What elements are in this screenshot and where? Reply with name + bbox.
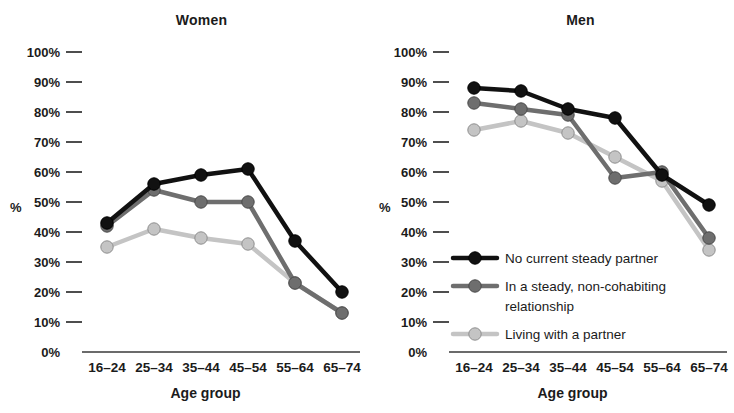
x-tick-label: 35–44 bbox=[182, 360, 220, 375]
x-tick-label: 16–24 bbox=[455, 360, 493, 375]
y-tick-label: 30% bbox=[401, 255, 427, 270]
x-tick-label: 65–74 bbox=[323, 360, 361, 375]
x-tick-label: 25–34 bbox=[135, 360, 173, 375]
data-point[interactable] bbox=[195, 169, 207, 181]
x-tick-label: 35–44 bbox=[549, 360, 587, 375]
data-point[interactable] bbox=[242, 163, 254, 175]
series-group-women bbox=[101, 163, 348, 319]
x-tick-label: 65–74 bbox=[690, 360, 728, 375]
data-point[interactable] bbox=[468, 124, 480, 136]
y-tick-label: 100% bbox=[394, 45, 428, 60]
data-point[interactable] bbox=[289, 235, 301, 247]
data-point[interactable] bbox=[562, 103, 574, 115]
data-point[interactable] bbox=[242, 238, 254, 250]
series-line bbox=[107, 169, 342, 292]
x-tick-label: 55–64 bbox=[276, 360, 314, 375]
y-tick-label: 80% bbox=[401, 105, 427, 120]
x-axis-label-women: Age group bbox=[22, 385, 389, 401]
legend-swatch-marker bbox=[469, 328, 481, 340]
y-tick-label: 30% bbox=[34, 255, 60, 270]
y-axis-label-men: % bbox=[379, 200, 391, 215]
data-point[interactable] bbox=[336, 286, 348, 298]
legend-label[interactable]: No current steady partner bbox=[505, 251, 659, 266]
x-tick-label: 55–64 bbox=[643, 360, 681, 375]
y-tick-label: 80% bbox=[34, 105, 60, 120]
y-axis-ticks-men: 0%10%20%30%40%50%60%70%80%90%100% bbox=[394, 45, 449, 360]
data-point[interactable] bbox=[609, 172, 621, 184]
data-point[interactable] bbox=[656, 169, 668, 181]
legend-men: No current steady partnerIn a steady, no… bbox=[453, 251, 666, 342]
data-point[interactable] bbox=[515, 115, 527, 127]
y-tick-label: 70% bbox=[34, 135, 60, 150]
y-tick-label: 40% bbox=[34, 225, 60, 240]
legend-swatch-marker bbox=[469, 280, 481, 292]
data-point[interactable] bbox=[195, 232, 207, 244]
x-axis-label-men: Age group bbox=[389, 385, 734, 401]
x-axis-ticks-women: 16–2425–3435–4445–5455–6465–74 bbox=[88, 360, 361, 375]
data-point[interactable] bbox=[468, 97, 480, 109]
plot-women: 0%10%20%30%40%50%60%70%80%90%100% 16–242… bbox=[0, 0, 367, 413]
data-point[interactable] bbox=[515, 85, 527, 97]
data-point[interactable] bbox=[609, 112, 621, 124]
series-line bbox=[107, 229, 342, 313]
data-point[interactable] bbox=[515, 103, 527, 115]
chart-panel-men: Men 0%10%20%30%40%50%60%70%80%90%100% 16… bbox=[367, 0, 734, 413]
legend-swatch-marker bbox=[469, 252, 481, 264]
y-tick-label: 60% bbox=[34, 165, 60, 180]
plot-men: 0%10%20%30%40%50%60%70%80%90%100% 16–242… bbox=[367, 0, 734, 413]
data-point[interactable] bbox=[468, 82, 480, 94]
data-point[interactable] bbox=[148, 223, 160, 235]
y-tick-label: 20% bbox=[34, 285, 60, 300]
y-tick-label: 20% bbox=[401, 285, 427, 300]
y-tick-label: 100% bbox=[27, 45, 61, 60]
x-tick-label: 45–54 bbox=[596, 360, 634, 375]
legend-label[interactable]: relationship bbox=[505, 299, 574, 314]
y-tick-label: 90% bbox=[401, 75, 427, 90]
y-tick-label: 60% bbox=[401, 165, 427, 180]
data-point[interactable] bbox=[703, 232, 715, 244]
legend-label[interactable]: In a steady, non-cohabiting bbox=[505, 279, 666, 294]
y-tick-label: 0% bbox=[41, 345, 60, 360]
data-point[interactable] bbox=[242, 196, 254, 208]
x-tick-label: 45–54 bbox=[229, 360, 267, 375]
data-point[interactable] bbox=[148, 178, 160, 190]
y-axis-ticks-women: 0%10%20%30%40%50%60%70%80%90%100% bbox=[27, 45, 82, 360]
x-tick-label: 16–24 bbox=[88, 360, 126, 375]
y-tick-label: 10% bbox=[34, 315, 60, 330]
data-point[interactable] bbox=[336, 307, 348, 319]
data-point[interactable] bbox=[101, 241, 113, 253]
data-point[interactable] bbox=[101, 217, 113, 229]
figure-container: Women 0%10%20%30%40%50%60%70%80%90%100% … bbox=[0, 0, 734, 413]
data-point[interactable] bbox=[289, 277, 301, 289]
y-tick-label: 90% bbox=[34, 75, 60, 90]
chart-panel-women: Women 0%10%20%30%40%50%60%70%80%90%100% … bbox=[0, 0, 367, 413]
data-point[interactable] bbox=[195, 196, 207, 208]
series-group-men bbox=[468, 82, 715, 256]
y-tick-label: 70% bbox=[401, 135, 427, 150]
y-axis-label-women: % bbox=[10, 200, 22, 215]
y-tick-label: 50% bbox=[401, 195, 427, 210]
legend-label[interactable]: Living with a partner bbox=[505, 327, 626, 342]
y-tick-label: 50% bbox=[34, 195, 60, 210]
data-point[interactable] bbox=[703, 244, 715, 256]
y-tick-label: 10% bbox=[401, 315, 427, 330]
y-tick-label: 0% bbox=[408, 345, 427, 360]
y-tick-label: 40% bbox=[401, 225, 427, 240]
x-tick-label: 25–34 bbox=[502, 360, 540, 375]
data-point[interactable] bbox=[703, 199, 715, 211]
data-point[interactable] bbox=[562, 127, 574, 139]
x-axis-ticks-men: 16–2425–3435–4445–5455–6465–74 bbox=[455, 360, 728, 375]
data-point[interactable] bbox=[609, 151, 621, 163]
